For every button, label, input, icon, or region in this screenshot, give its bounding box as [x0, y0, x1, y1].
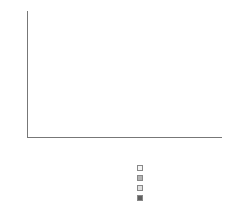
x-axis	[27, 137, 222, 138]
legend	[137, 163, 147, 203]
legend-swatch	[137, 175, 143, 181]
legend-swatch	[137, 165, 143, 171]
legend-swatch	[137, 195, 143, 201]
legend-item-faeces	[137, 193, 147, 203]
y-axis	[27, 11, 28, 137]
legend-item-grey-water	[137, 173, 147, 183]
legend-item-urine	[137, 183, 147, 193]
legend-swatch	[137, 185, 143, 191]
stacked-bar-chart	[0, 0, 227, 150]
legend-item-organic	[137, 163, 147, 173]
